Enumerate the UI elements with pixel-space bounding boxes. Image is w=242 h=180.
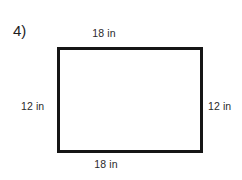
dimension-label-left: 12 in <box>21 100 44 113</box>
worksheet-figure: 4) 18 in 12 in 12 in 18 in <box>0 0 242 180</box>
rectangle-shape <box>57 47 203 153</box>
dimension-label-bottom: 18 in <box>0 158 242 171</box>
dimension-label-top: 18 in <box>0 27 242 40</box>
dimension-label-right: 12 in <box>208 100 231 113</box>
